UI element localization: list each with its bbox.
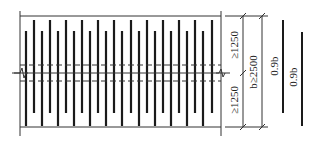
upper-segment-label: ≥1250: [228, 30, 240, 59]
lower-segment-label: ≥1250: [228, 85, 240, 114]
bar-length-label-1: 0.9b: [268, 56, 280, 76]
rebar-diagram: ≥1250 ≥1250 b≥2500 0.9b 0.9b: [0, 0, 318, 143]
bar-length-label-2: 0.9b: [287, 67, 299, 87]
total-width-label: b≥2500: [247, 55, 259, 89]
